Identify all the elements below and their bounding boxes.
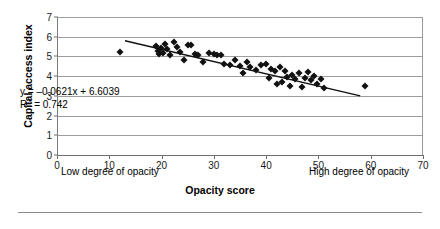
x-tick-mark-10 [109,155,110,159]
x-tick-mark-50 [318,155,319,159]
x-tick-mark-60 [371,155,372,159]
x-tick-label-30: 30 [208,160,219,171]
r-squared-value: = 0.742 [31,99,67,110]
x-tick-mark-70 [423,155,424,159]
y-tick-label-2: 2 [46,110,52,121]
scatter-chart-figure: Capital access index 01234567 0102030405… [0,0,440,229]
y-tick-label-0: 0 [46,150,52,161]
x-tick-label-0: 0 [54,160,60,171]
x-tick-mark-40 [266,155,267,159]
x-axis-low-annotation: Low degree of opacity [61,166,159,177]
x-axis-high-annotation: High degree of opacity [309,166,409,177]
x-tick-mark-30 [214,155,215,159]
bottom-divider [18,212,422,213]
equation-text: y = –0.0621x + 6.6039 [20,86,120,99]
y-tick-label-5: 5 [46,51,52,62]
x-tick-mark-0 [57,155,58,159]
r-squared-text: R2 = 0.742 [20,99,120,112]
x-axis-title: Opacity score [0,184,440,196]
gridline-y-0 [57,155,423,156]
x-tick-mark-20 [162,155,163,159]
regression-annotation: y = –0.0621x + 6.6039 R2 = 0.742 [20,86,120,111]
y-tick-label-6: 6 [46,31,52,42]
y-tick-label-4: 4 [46,71,52,82]
x-tick-label-40: 40 [261,160,272,171]
x-tick-label-70: 70 [417,160,428,171]
y-axis-title: Capital access index [22,0,34,156]
y-tick-label-1: 1 [46,130,52,141]
y-tick-label-7: 7 [46,12,52,23]
